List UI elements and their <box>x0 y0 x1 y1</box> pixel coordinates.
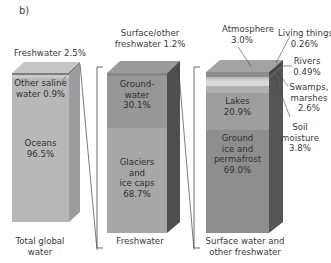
label-atmosphere: Atmosphere 3.0% <box>222 24 262 45</box>
xlabel-surface-water: Surface water and other freshwater <box>200 236 290 257</box>
label-living-things: Living things 0.26% <box>278 28 331 49</box>
label-groundwater: Ground- water 30.1% <box>107 79 167 111</box>
label-ground-ice-permafrost: Ground ice and permafrost 69.0% <box>206 133 269 175</box>
label-freshwater-share: Freshwater 2.5% <box>14 48 86 59</box>
label-surface-other-freshwater: Surface/other freshwater 1.2% <box>110 28 190 49</box>
label-rivers: Rivers 0.49% <box>290 56 324 77</box>
xlabel-total-global-water: Total global water <box>10 236 70 257</box>
label-soil-moisture: Soil moisture 3.8% <box>280 122 320 154</box>
label-glaciers: Glaciers and ice caps 68.7% <box>107 157 167 199</box>
label-swamps-marshes: Swamps, marshes 2.6% <box>288 82 330 114</box>
xlabel-freshwater: Freshwater <box>110 236 170 247</box>
label-other-saline: Other saline water 0.9% <box>12 78 69 99</box>
label-lakes: Lakes 20.9% <box>206 96 269 117</box>
chart-figure: b) <box>0 0 331 263</box>
label-oceans: Oceans 96.5% <box>12 138 69 159</box>
